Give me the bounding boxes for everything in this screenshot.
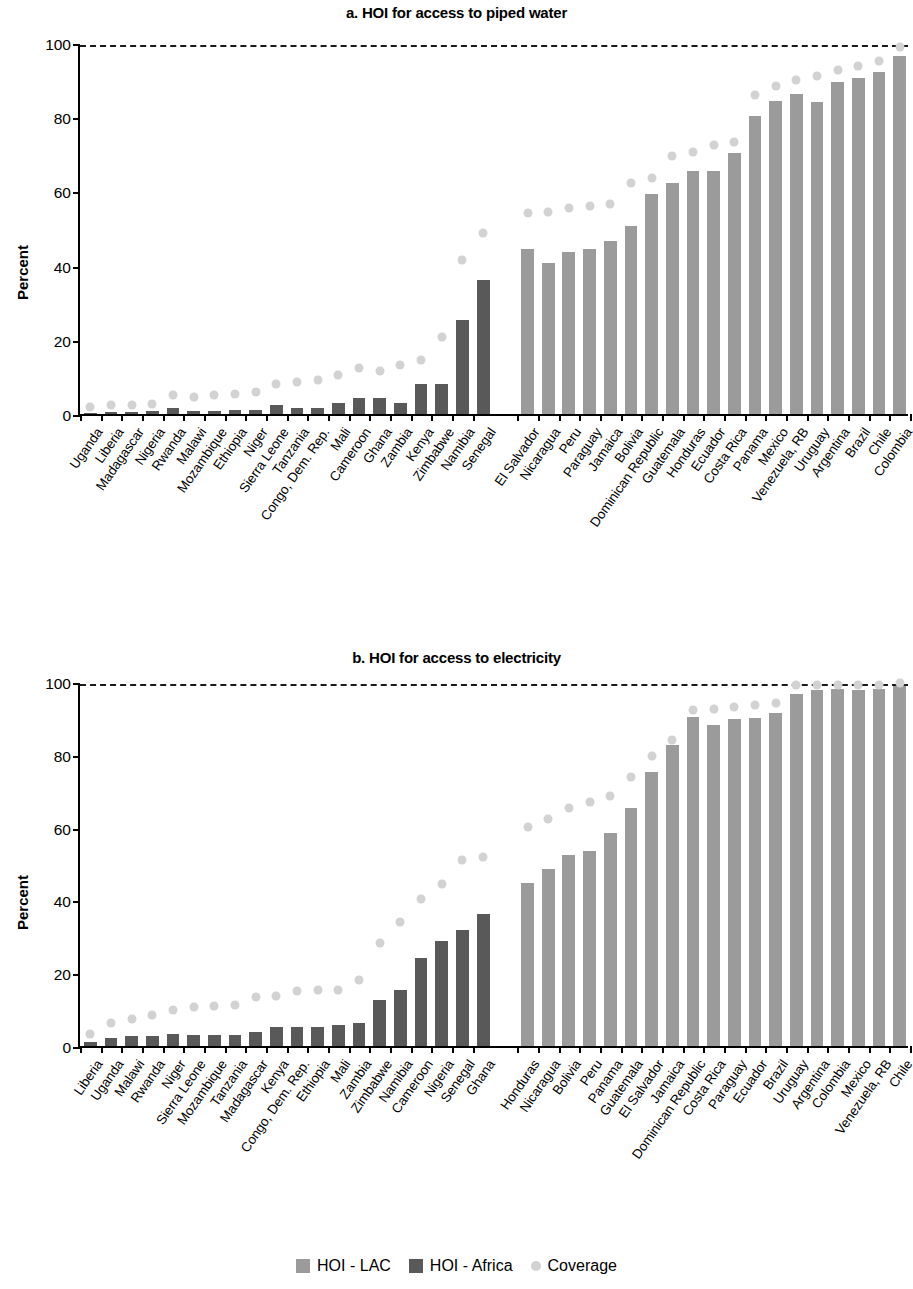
bar-uganda[interactable] <box>84 413 97 415</box>
bar-nicaragua[interactable] <box>542 263 555 414</box>
coverage-dot[interactable] <box>210 1002 219 1011</box>
coverage-dot[interactable] <box>833 680 842 689</box>
coverage-dot[interactable] <box>458 855 467 864</box>
coverage-dot[interactable] <box>86 1030 95 1039</box>
bar-ecuador[interactable] <box>749 718 762 1046</box>
coverage-dot[interactable] <box>668 152 677 161</box>
legend-item-lac[interactable]: HOI - LAC <box>296 1257 391 1275</box>
bar-costa-rica[interactable] <box>707 725 720 1046</box>
bar-tanzania[interactable] <box>229 1035 242 1046</box>
bar-ecuador[interactable] <box>707 171 720 414</box>
coverage-dot[interactable] <box>874 56 883 65</box>
coverage-dot[interactable] <box>127 401 136 410</box>
coverage-dot[interactable] <box>251 388 260 397</box>
coverage-dot[interactable] <box>107 1019 116 1028</box>
bar-nigeria[interactable] <box>435 941 448 1046</box>
coverage-dot[interactable] <box>585 202 594 211</box>
coverage-dot[interactable] <box>709 140 718 149</box>
coverage-dot[interactable] <box>730 138 739 147</box>
coverage-dot[interactable] <box>417 356 426 365</box>
bar-namibia[interactable] <box>456 320 469 414</box>
coverage-dot[interactable] <box>251 992 260 1001</box>
bar-zambia[interactable] <box>353 1023 366 1046</box>
bar-malawi[interactable] <box>125 1036 138 1046</box>
bar-colombia[interactable] <box>893 56 906 414</box>
bar-guatemala[interactable] <box>625 808 638 1046</box>
coverage-dot[interactable] <box>647 751 656 760</box>
coverage-dot[interactable] <box>231 1000 240 1009</box>
coverage-dot[interactable] <box>750 700 759 709</box>
bar-senegal[interactable] <box>456 930 469 1046</box>
bar-liberia[interactable] <box>105 412 118 414</box>
coverage-dot[interactable] <box>750 91 759 100</box>
coverage-dot[interactable] <box>86 403 95 412</box>
coverage-dot[interactable] <box>396 917 405 926</box>
coverage-dot[interactable] <box>668 735 677 744</box>
coverage-dot[interactable] <box>479 228 488 237</box>
bar-el-salvador[interactable] <box>645 772 658 1046</box>
coverage-dot[interactable] <box>523 208 532 217</box>
coverage-dot[interactable] <box>148 399 157 408</box>
coverage-dot[interactable] <box>895 43 904 52</box>
bar-chile[interactable] <box>873 72 886 414</box>
bar-ghana[interactable] <box>477 914 490 1046</box>
coverage-dot[interactable] <box>585 798 594 807</box>
bar-namibia[interactable] <box>394 990 407 1046</box>
bar-madagascar[interactable] <box>125 412 138 414</box>
bar-paraguay[interactable] <box>728 719 741 1046</box>
bar-mali[interactable] <box>332 403 345 414</box>
bar-tanzania[interactable] <box>291 408 304 414</box>
coverage-dot[interactable] <box>375 367 384 376</box>
coverage-dot[interactable] <box>688 706 697 715</box>
bar-niger[interactable] <box>249 410 262 414</box>
bar-zimbabwe[interactable] <box>373 1000 386 1046</box>
coverage-dot[interactable] <box>564 803 573 812</box>
coverage-dot[interactable] <box>771 699 780 708</box>
coverage-dot[interactable] <box>479 853 488 862</box>
bar-rwanda[interactable] <box>146 1036 159 1046</box>
coverage-dot[interactable] <box>647 174 656 183</box>
coverage-dot[interactable] <box>334 985 343 994</box>
coverage-dot[interactable] <box>313 986 322 995</box>
bar-liberia[interactable] <box>84 1042 97 1046</box>
bar-brazil[interactable] <box>852 78 865 414</box>
coverage-dot[interactable] <box>417 894 426 903</box>
coverage-dot[interactable] <box>626 178 635 187</box>
bar-kenya[interactable] <box>270 1027 283 1046</box>
coverage-dot[interactable] <box>854 680 863 689</box>
coverage-dot[interactable] <box>812 680 821 689</box>
coverage-dot[interactable] <box>127 1014 136 1023</box>
bar-brazil[interactable] <box>769 713 782 1046</box>
bar-costa-rica[interactable] <box>728 153 741 414</box>
coverage-dot[interactable] <box>730 703 739 712</box>
coverage-dot[interactable] <box>874 680 883 689</box>
bar-chile[interactable] <box>893 686 906 1046</box>
bar-sierra-leone[interactable] <box>187 1035 200 1046</box>
coverage-dot[interactable] <box>107 401 116 410</box>
bar-nigeria[interactable] <box>146 411 159 414</box>
bar-panama[interactable] <box>604 833 617 1046</box>
bar-mexico[interactable] <box>852 690 865 1046</box>
coverage-dot[interactable] <box>523 822 532 831</box>
bar-sierra-leone[interactable] <box>270 405 283 414</box>
bar-uruguay[interactable] <box>811 102 824 414</box>
coverage-dot[interactable] <box>709 705 718 714</box>
coverage-dot[interactable] <box>169 1006 178 1015</box>
coverage-dot[interactable] <box>189 1002 198 1011</box>
bar-nicaragua[interactable] <box>542 869 555 1046</box>
legend-item-afr[interactable]: HOI - Africa <box>409 1257 513 1275</box>
bar-argentina[interactable] <box>831 82 844 414</box>
bar-ethiopia[interactable] <box>229 410 242 414</box>
bar-zambia[interactable] <box>394 403 407 414</box>
bar-congo-dem-rep[interactable] <box>311 408 324 414</box>
bar-bolivia[interactable] <box>625 226 638 414</box>
bar-uganda[interactable] <box>105 1038 118 1046</box>
bar-mexico[interactable] <box>769 101 782 414</box>
coverage-dot[interactable] <box>458 255 467 264</box>
bar-el-salvador[interactable] <box>521 249 534 414</box>
coverage-dot[interactable] <box>771 81 780 90</box>
coverage-dot[interactable] <box>792 76 801 85</box>
coverage-dot[interactable] <box>833 66 842 75</box>
coverage-dot[interactable] <box>313 376 322 385</box>
bar-mali[interactable] <box>332 1025 345 1046</box>
